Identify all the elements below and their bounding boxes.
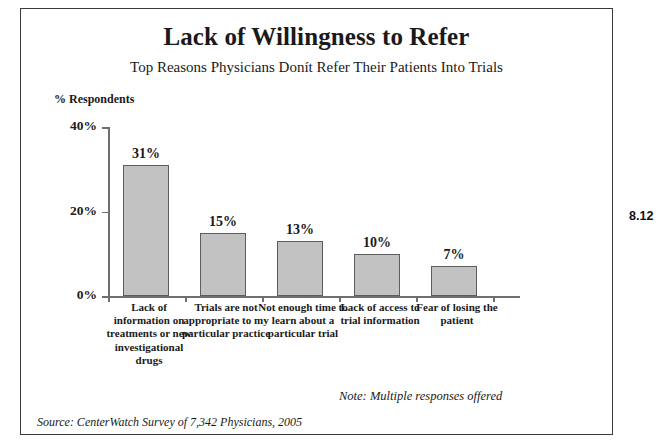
y-axis-title: % Respondents <box>54 92 134 107</box>
bar-3[interactable]: 10% <box>354 254 400 296</box>
y-tick-40: 40% <box>102 127 109 129</box>
bar-value-2: 13% <box>286 222 314 238</box>
y-tick-label-40: 40% <box>70 118 97 134</box>
bar-value-1: 15% <box>209 214 237 230</box>
figure-frame: Lack of Willingness to Refer Top Reasons… <box>20 8 613 435</box>
y-tick-label-0: 0% <box>77 287 97 303</box>
category-label-4: Fear of losing the patient <box>411 301 503 327</box>
bar-4[interactable]: 7% <box>431 266 477 296</box>
figure-number: 8.12 <box>629 209 653 223</box>
bar-value-4: 7% <box>444 247 465 263</box>
bar-1[interactable]: 15% <box>200 233 246 296</box>
bar-value-0: 31% <box>132 146 160 162</box>
chart-subtitle: Top Reasons Physicians Donít Refer Their… <box>21 59 612 76</box>
bar-value-3: 10% <box>363 235 391 251</box>
bar-0[interactable]: 31% <box>123 165 169 296</box>
y-tick-label-20: 20% <box>70 203 97 219</box>
chart-source: Source: CenterWatch Survey of 7,342 Phys… <box>37 415 302 430</box>
chart-title: Lack of Willingness to Refer <box>21 23 612 51</box>
bar-2[interactable]: 13% <box>277 241 323 296</box>
chart-note: Note: Multiple responses offered <box>339 389 502 404</box>
plot-area: 40% 20% 0% 31% 15% 13% 10% 7% <box>82 119 582 299</box>
x-axis-line <box>108 296 520 298</box>
y-tick-20: 20% <box>102 212 109 214</box>
